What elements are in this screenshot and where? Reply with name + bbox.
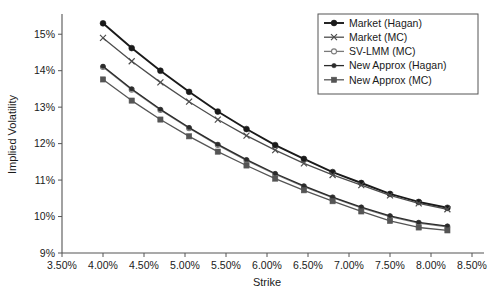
data-marker	[215, 117, 221, 123]
data-marker	[244, 163, 249, 168]
data-marker	[332, 63, 336, 67]
data-marker	[158, 68, 164, 74]
data-marker	[129, 45, 135, 51]
series-line	[103, 79, 447, 230]
data-marker	[158, 107, 162, 111]
x-tick-label: 5.00%	[170, 259, 200, 271]
x-tick-label: 3.50%	[47, 259, 77, 271]
data-marker	[416, 225, 421, 230]
data-marker	[216, 142, 220, 146]
data-marker	[101, 64, 105, 68]
data-marker	[100, 77, 105, 82]
data-marker	[187, 134, 192, 139]
data-marker	[129, 58, 135, 64]
y-tick-label: 9%	[40, 247, 55, 259]
data-marker	[157, 79, 163, 85]
data-marker	[330, 199, 335, 204]
data-marker	[331, 20, 337, 26]
legend-label: Market (MC)	[349, 31, 407, 43]
x-axis-title: Strike	[253, 276, 281, 288]
y-tick-label: 13%	[34, 101, 55, 113]
x-tick-label: 7.00%	[334, 259, 364, 271]
data-marker	[186, 99, 192, 105]
data-marker	[215, 109, 221, 115]
legend-label: Market (Hagan)	[349, 17, 422, 29]
legend-label: New Approx (MC)	[349, 74, 432, 86]
legend-label: SV-LMM (MC)	[349, 45, 416, 57]
x-tick-label: 8.50%	[457, 259, 487, 271]
data-marker	[187, 125, 191, 129]
y-tick-label: 11%	[35, 174, 55, 186]
data-marker	[186, 89, 192, 95]
x-tick-label: 7.50%	[375, 259, 405, 271]
y-tick-label: 10%	[34, 210, 55, 222]
data-marker	[100, 20, 106, 26]
legend-label: New Approx (Hagan)	[349, 59, 446, 71]
data-marker	[272, 142, 278, 148]
data-marker	[359, 209, 364, 214]
data-marker	[215, 149, 220, 154]
y-axis-title: Implied Volatility	[6, 95, 18, 174]
data-marker	[388, 214, 392, 218]
x-tick-label: 6.50%	[293, 259, 323, 271]
data-marker	[273, 176, 278, 181]
x-tick-label: 6.00%	[252, 259, 282, 271]
chart-legend: Market (Hagan)Market (MC)SV-LMM (MC)New …	[318, 14, 478, 94]
data-marker	[273, 171, 277, 175]
x-tick-label: 8.00%	[416, 259, 446, 271]
chart-figure: 9%10%11%12%13%14%15%3.50%4.00%4.50%5.00%…	[0, 0, 494, 296]
data-marker	[445, 228, 450, 233]
data-marker	[332, 49, 337, 54]
x-tick-label: 4.00%	[88, 259, 118, 271]
data-marker	[244, 133, 250, 139]
x-tick-label: 5.50%	[211, 259, 241, 271]
data-marker	[244, 157, 248, 161]
data-marker	[244, 126, 250, 132]
data-marker	[301, 188, 306, 193]
data-marker	[387, 218, 392, 223]
series-new-approx-mc	[100, 77, 450, 233]
data-marker	[129, 98, 134, 103]
x-tick-label: 4.50%	[129, 259, 159, 271]
y-tick-label: 15%	[34, 28, 55, 40]
data-marker	[158, 117, 163, 122]
y-tick-label: 12%	[34, 137, 55, 149]
data-marker	[331, 77, 336, 82]
data-marker	[130, 87, 134, 91]
implied-volatility-line-chart: 9%10%11%12%13%14%15%3.50%4.00%4.50%5.00%…	[0, 0, 494, 296]
data-marker	[417, 220, 421, 224]
y-tick-label: 14%	[34, 64, 55, 76]
data-marker	[100, 35, 106, 41]
